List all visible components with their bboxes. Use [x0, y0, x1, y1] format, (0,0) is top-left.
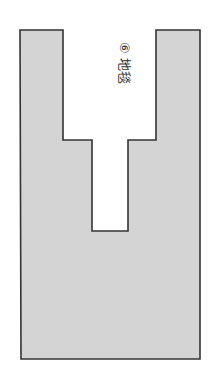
carpet-area-shape [20, 30, 200, 359]
carpet-shape-diagram [0, 0, 214, 383]
carpet-label: ⑥ 地毯 [114, 42, 134, 98]
